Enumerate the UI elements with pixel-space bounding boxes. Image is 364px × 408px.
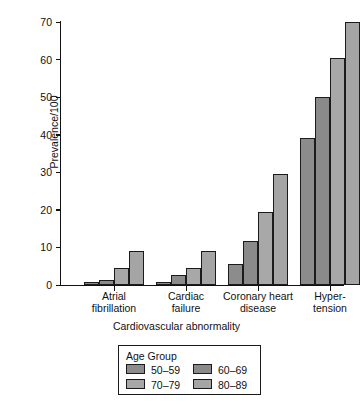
y-axis-tick-mark bbox=[56, 172, 61, 173]
y-axis-tick-mark bbox=[56, 59, 61, 60]
x-axis-title: Cardiovascular abnormality bbox=[0, 320, 353, 332]
legend-swatch bbox=[126, 364, 145, 374]
bar bbox=[114, 268, 129, 285]
bar bbox=[156, 282, 171, 285]
x-axis-category-label: Hyper-tension bbox=[285, 291, 364, 315]
bar bbox=[243, 241, 258, 285]
y-axis-tick-label: 70 bbox=[12, 17, 52, 28]
bar bbox=[201, 251, 216, 285]
legend: Age Group 50–5960–6970–7980–89 bbox=[118, 345, 261, 395]
y-axis-tick-label: 0 bbox=[12, 280, 52, 291]
legend-swatch bbox=[193, 364, 212, 374]
bar bbox=[273, 174, 288, 285]
y-axis-tick-label: 10 bbox=[12, 242, 52, 253]
y-axis-tick-label: 20 bbox=[12, 205, 52, 216]
bar bbox=[228, 264, 243, 285]
plot-area bbox=[61, 22, 343, 285]
bar bbox=[171, 275, 186, 285]
y-axis-tick-label: 50 bbox=[12, 92, 52, 103]
y-axis-tick-mark bbox=[56, 285, 61, 286]
bar bbox=[315, 97, 330, 285]
bar bbox=[99, 280, 114, 285]
bar bbox=[345, 22, 360, 285]
y-axis-tick-mark bbox=[56, 209, 61, 210]
y-axis-tick-label: 60 bbox=[12, 55, 52, 66]
y-axis-tick-label: 30 bbox=[12, 167, 52, 178]
y-axis-tick-mark bbox=[56, 134, 61, 135]
legend-label: 50–59 bbox=[151, 365, 180, 375]
y-axis-tick-mark bbox=[56, 97, 61, 98]
bar bbox=[300, 138, 315, 285]
legend-label: 80–89 bbox=[218, 380, 247, 390]
legend-label: 60–69 bbox=[218, 365, 247, 375]
bar bbox=[129, 251, 144, 285]
x-axis-category-label-line: tension bbox=[285, 303, 364, 315]
bar bbox=[186, 268, 201, 285]
y-axis-tick-mark bbox=[56, 247, 61, 248]
legend-swatch bbox=[126, 379, 145, 389]
bar bbox=[258, 212, 273, 285]
legend-title: Age Group bbox=[126, 350, 177, 362]
bar bbox=[84, 282, 99, 285]
y-axis-tick-mark bbox=[56, 22, 61, 23]
bar bbox=[330, 58, 345, 285]
y-axis-tick-label: 40 bbox=[12, 130, 52, 141]
legend-label: 70–79 bbox=[151, 380, 180, 390]
legend-swatch bbox=[193, 379, 212, 389]
